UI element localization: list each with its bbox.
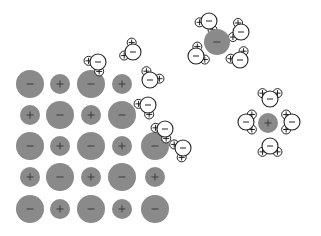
hydrated-anion xyxy=(188,13,249,68)
hydrated-cation xyxy=(238,89,300,157)
water-molecule xyxy=(238,110,256,134)
water-molecule xyxy=(142,67,164,88)
cation xyxy=(112,199,132,219)
diagram-canvas xyxy=(0,0,321,236)
anion xyxy=(46,101,74,129)
cation xyxy=(258,113,278,133)
water-molecule xyxy=(228,18,249,41)
oxygen-atom xyxy=(284,114,300,130)
cation xyxy=(112,74,132,94)
cation xyxy=(50,74,70,94)
cation xyxy=(112,136,132,156)
anion xyxy=(16,195,44,223)
oxygen-atom xyxy=(262,138,278,154)
cation xyxy=(81,105,101,125)
oxygen-atom xyxy=(125,44,141,60)
cation xyxy=(20,105,40,125)
water-molecule xyxy=(170,140,191,162)
oxygen-atom xyxy=(175,140,191,156)
anion xyxy=(108,101,136,129)
ionic-lattice xyxy=(16,70,169,223)
cation xyxy=(81,167,101,187)
cation xyxy=(145,167,165,187)
anion xyxy=(141,195,169,223)
anion xyxy=(46,163,74,191)
oxygen-atom xyxy=(232,52,248,68)
oxygen-atom xyxy=(201,13,217,29)
water-molecule xyxy=(282,110,300,134)
anion xyxy=(204,29,230,55)
cation xyxy=(50,136,70,156)
anion xyxy=(16,70,44,98)
oxygen-atom xyxy=(157,121,173,137)
water-molecule xyxy=(258,138,282,156)
dissolution-diagram xyxy=(0,0,321,236)
oxygen-atom xyxy=(233,24,249,40)
oxygen-atom xyxy=(188,48,204,64)
oxygen-atom xyxy=(238,114,254,130)
water-molecule xyxy=(226,47,248,68)
cation xyxy=(50,199,70,219)
water-molecule xyxy=(258,89,282,107)
oxygen-atom xyxy=(262,91,278,107)
oxygen-atom xyxy=(90,54,106,70)
anion xyxy=(16,132,44,160)
cation xyxy=(20,167,40,187)
anion xyxy=(108,163,136,191)
anion xyxy=(77,132,105,160)
water-molecule xyxy=(134,97,156,119)
oxygen-atom xyxy=(142,72,158,88)
oxygen-atom xyxy=(140,97,156,113)
anion xyxy=(77,195,105,223)
water-molecule xyxy=(120,38,141,60)
